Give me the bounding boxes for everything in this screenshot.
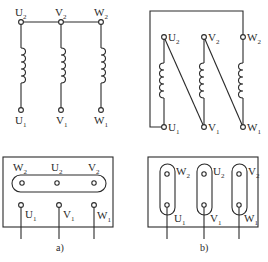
terminal-a-u1: [19, 108, 24, 113]
box-b-top-label-2: U2: [213, 165, 225, 180]
terminal-b-u1: [162, 125, 167, 130]
box-a-stud-w2: [20, 181, 24, 185]
box-b-bottom-label-1: U1: [174, 212, 186, 227]
box-a-top-label-1: W2: [13, 161, 27, 176]
box-a-stud-u1: [19, 203, 24, 208]
box-b-stud-v2: [237, 172, 241, 176]
label-a-top-3: W2: [94, 6, 108, 21]
terminal-b-w1: [241, 125, 246, 130]
box-b-stud-v1: [202, 203, 206, 207]
box-a-stud-v1: [57, 203, 62, 208]
terminal-b-v1: [202, 125, 207, 130]
terminal-a-u2: [19, 20, 24, 25]
caption-a: a): [56, 242, 64, 254]
label-b-bottom-2: V1: [208, 121, 220, 136]
box-b-top-label-1: W2: [176, 165, 190, 180]
box-b-stud-w1: [237, 203, 241, 207]
label-b-top-2: V2: [208, 31, 220, 46]
terminal-box-b-frame: [148, 157, 258, 227]
box-b-stud-w2: [165, 172, 169, 176]
winding-b-1: [160, 37, 165, 127]
box-a-bottom-label-2: V1: [63, 208, 75, 223]
box-b-stud-u1: [165, 203, 169, 207]
box-b-bottom-label-2: V1: [210, 212, 222, 227]
box-a-stud-u2: [55, 181, 59, 185]
winding-a-3: [101, 22, 106, 108]
terminal-box-a: W2 U2 V2 U1 V1 W1: [3, 157, 113, 239]
box-b-bottom-label-3: W1: [244, 212, 258, 227]
box-a-stud-v2: [92, 181, 96, 185]
winding-b-2: [200, 37, 205, 127]
label-b-bottom-1: U1: [168, 121, 180, 136]
label-a-top-1: U2: [15, 6, 27, 21]
terminal-b-u2: [162, 35, 167, 40]
box-b-stud-u2: [202, 172, 206, 176]
terminal-a-w1: [99, 108, 104, 113]
winding-a-2: [61, 22, 66, 108]
terminal-a-v1: [59, 108, 64, 113]
label-b-top-1: U2: [168, 31, 180, 46]
terminal-b-w2: [241, 35, 246, 40]
winding-connection-diagram: U2 V2 W2 U1 V1 W1: [0, 0, 268, 262]
label-a-top-2: V2: [55, 6, 67, 21]
caption-b: b): [200, 242, 208, 254]
box-a-bottom-label-1: U1: [25, 208, 37, 223]
terminal-box-b: W2 U2 V2 U1 V1 W1: [148, 157, 260, 239]
panel-b-delta-schematic: U2 V2 W2 U1 V1 W1: [150, 11, 261, 136]
winding-b-3: [239, 37, 244, 127]
terminal-b-v2: [202, 35, 207, 40]
box-a-top-label-3: V2: [88, 161, 100, 176]
delta-link-v2-w1: [204, 37, 243, 127]
label-b-top-3: W2: [247, 31, 261, 46]
terminal-a-v2: [59, 20, 64, 25]
box-a-bottom-label-3: W1: [97, 209, 111, 224]
label-b-bottom-3: W1: [247, 121, 261, 136]
delta-link-u2-v1: [164, 37, 204, 127]
terminal-a-w2: [99, 20, 104, 25]
label-a-bottom-3: W1: [94, 114, 108, 129]
panel-a-star-schematic: U2 V2 W2 U1 V1 W1: [15, 6, 108, 129]
label-a-bottom-1: U1: [15, 114, 27, 129]
label-a-bottom-2: V1: [56, 114, 68, 129]
box-a-top-label-2: U2: [51, 161, 63, 176]
winding-a-1: [21, 22, 26, 108]
box-a-stud-w1: [92, 203, 97, 208]
